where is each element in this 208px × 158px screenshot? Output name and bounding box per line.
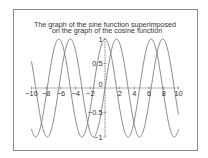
x-tick-label: 2 — [118, 89, 122, 98]
chart-title-line-2: on the graph of the cosine function — [52, 26, 162, 35]
x-tick-label: 4 — [132, 89, 136, 98]
x-tick-label: −2 — [86, 89, 94, 98]
x-tick-label: 6 — [147, 89, 151, 98]
y-tick-label: −1 — [94, 133, 102, 142]
y-tick-label: −0.5 — [88, 108, 103, 117]
x-tick-label: −10 — [25, 89, 38, 98]
x-tick-label: −6 — [57, 89, 65, 98]
sine-cosine-chart: The graph of the sine function superimpo… — [0, 0, 208, 158]
x-tick-label: −8 — [42, 89, 50, 98]
y-tick-label: 1 — [98, 35, 102, 44]
y-tick-label: 0.5 — [92, 59, 102, 68]
x-tick-label: 0 — [98, 80, 102, 89]
x-tick-label: 10 — [174, 89, 182, 98]
x-tick-label: −4 — [71, 89, 79, 98]
x-tick-label: 8 — [162, 89, 166, 98]
